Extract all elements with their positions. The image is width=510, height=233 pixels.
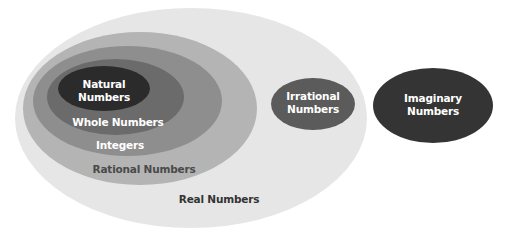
natural-label-line2: Numbers [78, 91, 130, 104]
irrational-label-line2: Numbers [286, 103, 339, 116]
natural-label-line1: Natural [78, 78, 130, 91]
irrational-numbers-label: Irrational Numbers [286, 90, 339, 116]
imaginary-label-line1: Imaginary [404, 92, 462, 105]
real-numbers-label: Real Numbers [179, 193, 259, 206]
whole-numbers-label: Whole Numbers [72, 116, 163, 129]
rational-numbers-label: Rational Numbers [93, 163, 196, 176]
number-sets-diagram: Natural Numbers Whole Numbers Integers R… [0, 0, 510, 233]
irrational-label-line1: Irrational [286, 90, 339, 103]
integers-label: Integers [96, 139, 144, 152]
imaginary-numbers-label: Imaginary Numbers [404, 92, 462, 118]
imaginary-label-line2: Numbers [404, 105, 462, 118]
natural-numbers-label: Natural Numbers [78, 78, 130, 104]
